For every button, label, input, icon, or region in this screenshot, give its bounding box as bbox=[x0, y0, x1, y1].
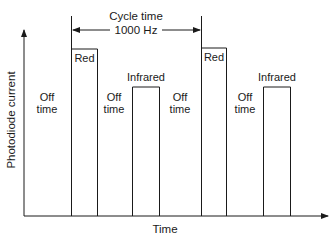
off-time-label-2: Off time bbox=[104, 91, 125, 115]
pulse-red-1: Red bbox=[72, 49, 98, 216]
led-timing-diagram: Photodiode current Time Cycle time 1000 … bbox=[0, 0, 332, 240]
svg-text:Off: Off bbox=[238, 91, 253, 103]
cycle-frequency: 1000 Hz bbox=[115, 24, 158, 36]
pulse-label: Infrared bbox=[127, 71, 165, 83]
svg-text:Off: Off bbox=[173, 91, 188, 103]
svg-text:time: time bbox=[104, 103, 125, 115]
cycle-time-title: Cycle time bbox=[109, 10, 163, 22]
y-axis-label: Photodiode current bbox=[5, 71, 17, 169]
svg-text:Off: Off bbox=[107, 91, 122, 103]
off-time-label-1: Off time bbox=[37, 91, 58, 115]
svg-text:time: time bbox=[37, 103, 58, 115]
pulse-infrared-2: Infrared bbox=[258, 71, 296, 216]
pulse-infrared-1: Infrared bbox=[127, 71, 165, 216]
svg-text:Off: Off bbox=[40, 91, 55, 103]
pulse-label: Infrared bbox=[258, 71, 296, 83]
pulse-label: Red bbox=[74, 52, 94, 64]
svg-text:time: time bbox=[235, 103, 256, 115]
off-time-label-4: Off time bbox=[235, 91, 256, 115]
svg-text:time: time bbox=[170, 103, 191, 115]
off-time-label-3: Off time bbox=[170, 91, 191, 115]
x-axis-label: Time bbox=[152, 223, 177, 235]
pulse-label: Red bbox=[204, 51, 224, 63]
pulse-red-2: Red bbox=[202, 48, 227, 216]
